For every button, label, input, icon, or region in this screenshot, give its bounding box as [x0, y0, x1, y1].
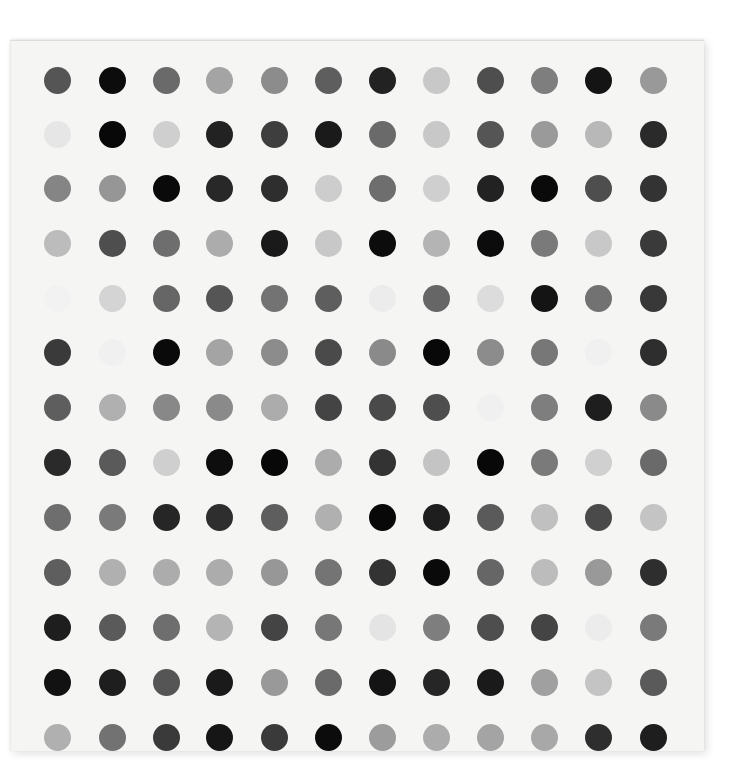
spot-dot — [206, 559, 233, 586]
spot-dot — [261, 724, 288, 751]
spot-dot — [423, 67, 450, 94]
spot-dot — [99, 394, 126, 421]
spot-dot — [477, 669, 504, 696]
spot-dot — [206, 230, 233, 257]
spot-dot — [477, 339, 504, 366]
spot-dot — [261, 175, 288, 202]
spot-dot — [261, 67, 288, 94]
spot-dot — [585, 724, 612, 751]
spot-dot — [369, 669, 396, 696]
spot-dot — [585, 614, 612, 641]
spot-dot — [477, 230, 504, 257]
spot-dot — [99, 175, 126, 202]
spot-dot — [99, 559, 126, 586]
spot-dot — [153, 449, 180, 476]
spot-dot — [261, 121, 288, 148]
spot-dot — [640, 724, 667, 751]
spot-dot — [315, 614, 342, 641]
spot-dot — [369, 559, 396, 586]
spot-dot — [99, 504, 126, 531]
spot-dot — [153, 394, 180, 421]
spot-dot — [206, 285, 233, 312]
spot-dot — [153, 559, 180, 586]
spot-dot — [153, 614, 180, 641]
spot-dot — [585, 339, 612, 366]
spot-dot — [153, 504, 180, 531]
spot-dot — [423, 339, 450, 366]
spot-dot — [477, 175, 504, 202]
spot-dot — [44, 724, 71, 751]
spot-dot — [315, 559, 342, 586]
spot-dot — [423, 121, 450, 148]
spot-dot — [369, 724, 396, 751]
spot-dot — [206, 669, 233, 696]
spot-dot — [369, 285, 396, 312]
spot-dot — [99, 449, 126, 476]
spot-dot — [531, 614, 558, 641]
spot-dot — [206, 175, 233, 202]
spot-dot — [99, 724, 126, 751]
spot-dot — [531, 559, 558, 586]
spot-dot — [99, 230, 126, 257]
spot-dot — [44, 559, 71, 586]
spot-dot — [153, 175, 180, 202]
spot-dot — [44, 285, 71, 312]
spot-dot — [640, 614, 667, 641]
spot-dot — [585, 121, 612, 148]
spot-dot — [153, 669, 180, 696]
spot-dot — [531, 285, 558, 312]
spot-dot — [531, 67, 558, 94]
spot-dot — [315, 724, 342, 751]
spot-dot — [423, 230, 450, 257]
spot-dot — [206, 67, 233, 94]
spot-dot — [99, 614, 126, 641]
spot-dot — [369, 504, 396, 531]
spot-dot — [261, 669, 288, 696]
spot-dot — [531, 724, 558, 751]
spot-dot — [640, 559, 667, 586]
spot-dot — [315, 339, 342, 366]
spot-dot — [44, 121, 71, 148]
spot-dot — [206, 724, 233, 751]
spot-dot — [44, 504, 71, 531]
spot-dot — [585, 230, 612, 257]
spot-dot — [44, 669, 71, 696]
spot-dot — [315, 669, 342, 696]
spot-dot — [585, 175, 612, 202]
spot-dot — [315, 504, 342, 531]
spot-dot — [369, 67, 396, 94]
spot-dot — [261, 504, 288, 531]
artwork-stage — [0, 0, 729, 784]
spot-dot — [369, 614, 396, 641]
spot-dot — [99, 669, 126, 696]
spot-dot — [585, 669, 612, 696]
spot-dot — [261, 285, 288, 312]
spot-dot — [153, 121, 180, 148]
spot-dot — [369, 394, 396, 421]
spot-dot — [261, 339, 288, 366]
spot-dot — [44, 67, 71, 94]
spot-dot — [585, 394, 612, 421]
spot-dot — [423, 175, 450, 202]
spot-dot — [477, 504, 504, 531]
spot-dot — [153, 230, 180, 257]
spot-dot — [585, 559, 612, 586]
spot-dot — [153, 67, 180, 94]
spot-dot — [99, 121, 126, 148]
spot-dot — [423, 285, 450, 312]
spot-dot — [315, 121, 342, 148]
spot-dot — [423, 669, 450, 696]
spot-dot — [315, 449, 342, 476]
spot-dot — [531, 504, 558, 531]
spot-dot — [640, 394, 667, 421]
spot-dot — [640, 121, 667, 148]
spot-dot — [640, 339, 667, 366]
spot-dot — [261, 230, 288, 257]
spot-dot — [585, 285, 612, 312]
spot-dot — [369, 339, 396, 366]
spot-dot — [477, 121, 504, 148]
spot-dot — [44, 175, 71, 202]
spot-dot — [315, 285, 342, 312]
spot-dot — [423, 394, 450, 421]
spot-dot — [423, 504, 450, 531]
